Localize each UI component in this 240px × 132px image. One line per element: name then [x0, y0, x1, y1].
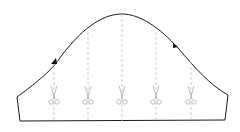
scissors-icons — [49, 86, 196, 104]
pattern-outline — [17, 14, 228, 121]
sleeve-pattern-diagram — [0, 0, 240, 132]
front-notch-icon — [51, 58, 57, 64]
slash-lines — [54, 14, 191, 121]
diagram-canvas — [0, 0, 240, 132]
